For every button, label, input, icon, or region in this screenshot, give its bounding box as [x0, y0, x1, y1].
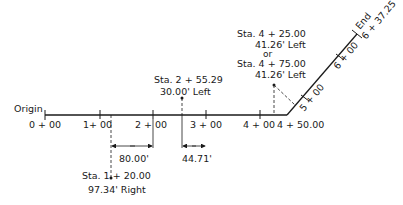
dimension-80-label: 80.00' — [119, 153, 149, 164]
station-label-0: 0 + 00 — [29, 119, 61, 130]
point-c-station-1: Sta. 4 + 25.00 — [237, 28, 306, 39]
origin-label: Origin — [14, 103, 43, 114]
station-label-1: 1+ 00 — [83, 119, 112, 130]
station-label-4: 4 + 00 — [243, 119, 275, 130]
point-a-offset: 97.34' Right — [88, 184, 146, 195]
point-c-offset-2: 41.26' Left — [255, 69, 306, 80]
point-c-offset-line-diagonal — [274, 85, 295, 105]
station-label-3: 3 + 00 — [190, 119, 222, 130]
point-c-marker — [273, 84, 276, 87]
point-b-offset: 30.00' Left — [160, 86, 211, 97]
point-a-station: Sta. 1 + 20.00 — [82, 170, 151, 181]
station-label-6: 6 + 00 — [331, 40, 360, 72]
stationing-diagram: Origin 0 + 00 1+ 00 2 + 00 3 + 00 4 + 00… — [0, 0, 403, 205]
point-c-station-2: Sta. 4 + 75.00 — [237, 58, 306, 69]
dimension-44-label: 44.71' — [182, 153, 212, 164]
point-b-station: Sta. 2 + 55.29 — [154, 74, 223, 85]
station-label-2: 2 + 00 — [135, 119, 167, 130]
vertex-label: 4 + 50.00 — [277, 119, 324, 130]
